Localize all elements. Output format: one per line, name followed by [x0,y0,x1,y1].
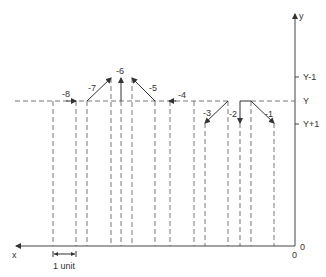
scale-bar: 1 unit [53,251,76,271]
arrow-minus-6: -6 [116,66,124,101]
force-vector-diagram: x y 0 0 Y-1 Y Y+1 [0,0,326,277]
y-axis-label: y [299,11,304,21]
svg-text:-8: -8 [62,89,70,99]
svg-text:-7: -7 [88,83,96,93]
arrow-minus-7: -7 [87,78,111,101]
y-tick-y-minus-1: Y-1 [295,72,316,82]
svg-text:Y+1: Y+1 [303,119,319,129]
svg-text:-1: -1 [265,109,273,119]
y-tick-y: Y [303,96,309,106]
svg-text:Y-1: Y-1 [303,72,316,82]
vertical-dashed-lines [53,78,274,246]
x-axis-label: x [12,250,17,260]
svg-text:-6: -6 [116,66,124,76]
arrow-minus-1: -1 [251,101,274,123]
scale-bar-label: 1 unit [53,261,76,271]
arrow-minus-2: -2 [229,101,240,123]
origin-y-label: 0 [292,250,297,260]
origin-x-label: 0 [300,242,305,252]
svg-text:-4: -4 [178,90,186,100]
svg-text:-2: -2 [229,109,237,119]
svg-text:-5: -5 [149,83,157,93]
svg-text:-3: -3 [203,108,211,118]
svg-text:Y: Y [303,96,309,106]
y-tick-y-plus-1: Y+1 [295,119,319,129]
arrow-minus-4: -4 [169,90,186,101]
arrow-minus-3: -3 [203,101,228,123]
arrow-minus-5: -5 [132,78,157,101]
arrow-minus-8: -8 [62,89,76,101]
